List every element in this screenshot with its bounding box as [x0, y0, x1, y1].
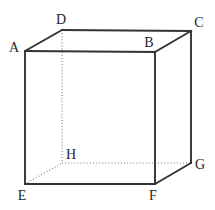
edge-CD	[62, 30, 191, 31]
vertex-label-e: E	[18, 189, 27, 203]
edge-AB	[25, 51, 155, 52]
edge-BC	[155, 31, 191, 52]
vertex-label-h: H	[66, 148, 76, 162]
edge-DA	[25, 30, 62, 51]
cube-svg	[0, 0, 215, 210]
vertex-label-g: G	[195, 158, 205, 172]
cube-figure: ABCDEFGH	[0, 0, 215, 210]
vertex-label-f: F	[149, 189, 157, 203]
solid-edge-group	[25, 30, 191, 184]
vertex-label-c: C	[194, 16, 203, 30]
vertex-label-b: B	[144, 36, 153, 50]
vertex-label-d: D	[56, 13, 66, 27]
vertex-label-a: A	[9, 41, 19, 55]
edge-EH-hidden	[25, 163, 62, 184]
hidden-edge-group	[25, 30, 191, 184]
edge-FG	[155, 163, 191, 184]
